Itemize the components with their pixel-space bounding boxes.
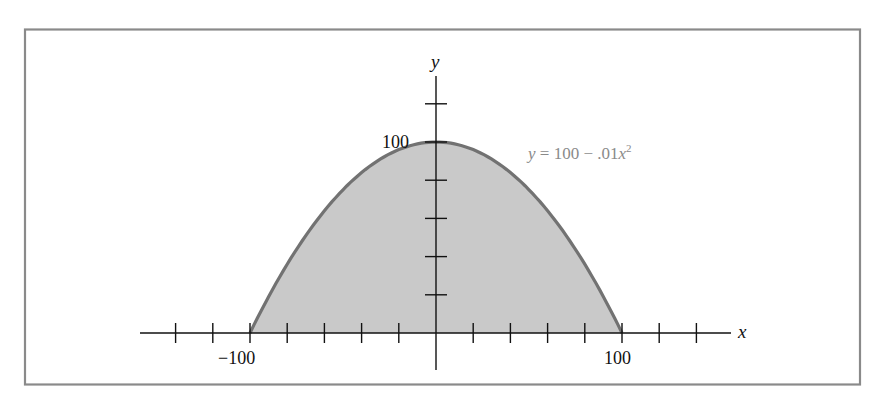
equation-label: y = 100 − .01x2 xyxy=(526,142,632,163)
x-axis-label: x xyxy=(737,321,747,342)
eq-exponent: 2 xyxy=(626,142,632,154)
y-axis-label: y xyxy=(429,51,440,72)
eq-mid: = 100 − .01 xyxy=(536,144,619,163)
x-tick-label-neg100: −100 xyxy=(218,348,255,368)
x-tick-label-100: 100 xyxy=(604,348,631,368)
parabola-figure: y x −100 100 100 y = 100 − .01x2 xyxy=(0,0,886,400)
eq-y: y xyxy=(526,144,536,163)
y-tick-label-100: 100 xyxy=(382,132,409,152)
